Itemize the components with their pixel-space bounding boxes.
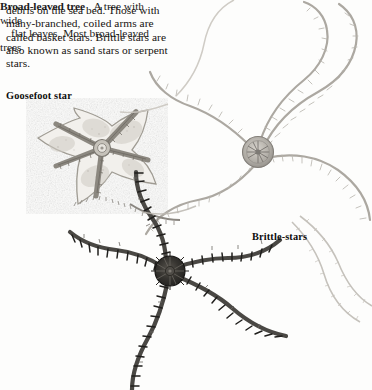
brittle-star-lower-disc xyxy=(151,252,189,290)
background-arms xyxy=(142,206,372,322)
body-text-line: stars. xyxy=(6,57,173,70)
body-text-line: called basket stars. Brittle stars are xyxy=(6,31,173,44)
brittle-star-upper-group xyxy=(146,2,370,234)
body-text-line: debris on the sea bed. Those with xyxy=(6,4,173,17)
goosefoot-arms xyxy=(56,112,148,196)
body-text-line: many-branched, coiled arms are xyxy=(6,17,173,30)
brittle-star-upper-disc xyxy=(243,137,274,168)
body-text-top: debris on the sea bed. Those with many-b… xyxy=(6,4,173,70)
goosefoot-trailing-arm xyxy=(130,204,180,220)
goosefoot-star-group xyxy=(38,108,156,209)
scanned-page: debris on the sea bed. Those with many-b… xyxy=(0,0,372,390)
body-text-line: also known as sand stars or serpent xyxy=(6,44,173,57)
caption-goosefoot-star: Goosefoot star xyxy=(6,90,72,101)
brittle-star-lower-group xyxy=(70,172,286,390)
caption-brittle-stars: Brittle-stars xyxy=(252,231,307,242)
